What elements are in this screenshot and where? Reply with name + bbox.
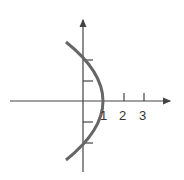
x-label-3: 3: [139, 108, 146, 123]
x-label-2: 2: [119, 108, 126, 123]
x-label-1: 1: [100, 108, 107, 123]
parabola-diagram: 1 2 3: [0, 0, 184, 180]
x-axis: [10, 93, 170, 101]
y-axis: [83, 20, 93, 172]
